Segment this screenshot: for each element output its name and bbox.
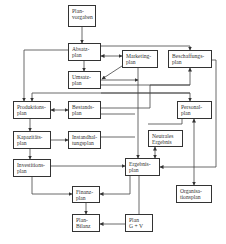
node-investitionsplan: Investitions- plan bbox=[13, 159, 51, 177]
node-finanzplan: Finanz- plan bbox=[72, 186, 100, 203]
connector-lines bbox=[0, 0, 226, 244]
node-kapazitaetsplan: Kapazitäts- plan bbox=[13, 131, 51, 149]
node-organisationsplan: Organisa- tionsplan bbox=[176, 185, 212, 203]
node-ergebnisplan: Ergebnis- plan bbox=[125, 158, 160, 176]
node-plan-guv: Plan G + V bbox=[125, 214, 153, 232]
node-neutrales-ergebnis: Neutrales Ergebnis bbox=[148, 130, 183, 147]
node-bestandsplan: Bestands- plan bbox=[68, 101, 101, 119]
node-instandhaltungsplan: Instandhal- tungsplan bbox=[68, 131, 101, 149]
node-produktionsplan: Produktions- plan bbox=[13, 101, 51, 119]
node-umsatzplan: Umsatz- plan bbox=[68, 71, 101, 89]
node-absatzplan: Absatz- plan bbox=[68, 43, 101, 61]
node-personalplan: Personal- plan bbox=[177, 101, 212, 119]
node-planvorgaben: Plan- vorgaben bbox=[68, 5, 96, 27]
node-marketingplan: Marketing- plan bbox=[122, 50, 158, 68]
node-beschaffungsplan: Beschaffungs- plan bbox=[168, 50, 212, 68]
node-planbilanz: Plan- Bilanz bbox=[72, 214, 100, 232]
